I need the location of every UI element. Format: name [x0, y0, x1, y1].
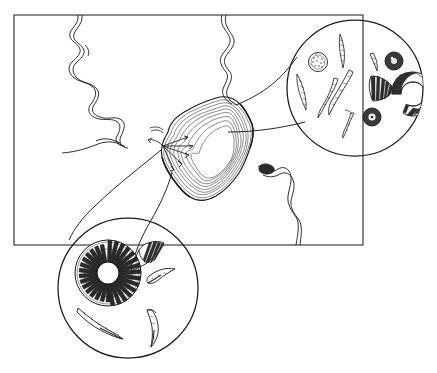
river-pool [259, 164, 275, 174]
centric-diatom [309, 53, 328, 72]
centric-diatom [363, 108, 381, 126]
radial-centric-diatom [75, 240, 141, 306]
centric-diatom [385, 52, 403, 70]
scientific-figure [0, 0, 437, 373]
figure-canvas [0, 0, 437, 373]
